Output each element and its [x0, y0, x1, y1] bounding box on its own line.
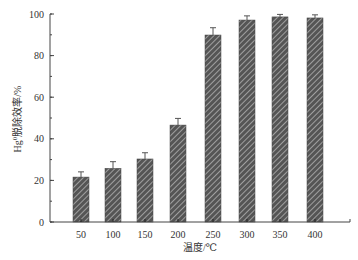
y-axis: 020406080100 — [29, 9, 54, 228]
y-tick-label: 100 — [29, 9, 44, 20]
bar-chart: 020406080100 50100150200250300350400 温度/… — [0, 0, 358, 260]
bar-250 — [205, 28, 221, 222]
x-tick-label: 300 — [240, 229, 255, 240]
y-axis-title: Hg0脱除效率/% — [11, 86, 23, 153]
bar — [170, 125, 186, 222]
x-axis-title: 温度/℃ — [183, 241, 217, 253]
y-tick-label: 40 — [34, 133, 44, 144]
x-axis: 50100150200250300350400 — [50, 219, 350, 240]
y-title-suffix: 脱除效率/% — [11, 86, 23, 137]
bar-100 — [105, 162, 121, 222]
bar — [73, 177, 89, 222]
bar — [205, 35, 221, 222]
bar — [137, 159, 153, 222]
x-tick-label: 50 — [76, 229, 86, 240]
bar — [272, 17, 288, 222]
bar-400 — [307, 15, 323, 222]
bar-350 — [272, 14, 288, 222]
bar — [307, 18, 323, 222]
bar — [105, 168, 121, 222]
x-tick-label: 100 — [106, 229, 121, 240]
bar-300 — [239, 16, 255, 222]
bar — [239, 20, 255, 222]
y-tick-label: 0 — [39, 217, 44, 228]
x-tick-label: 150 — [138, 229, 153, 240]
x-tick-label: 400 — [308, 229, 323, 240]
bar-200 — [170, 118, 186, 222]
bar-50 — [73, 172, 89, 222]
x-tick-label: 200 — [171, 229, 186, 240]
bar-150 — [137, 153, 153, 222]
y-tick-label: 60 — [34, 92, 44, 103]
y-tick-label: 20 — [34, 175, 44, 186]
y-title-prefix: Hg — [12, 140, 23, 152]
y-tick-label: 80 — [34, 50, 44, 61]
x-tick-label: 350 — [273, 229, 288, 240]
plot-area — [73, 14, 323, 222]
x-tick-label: 250 — [206, 229, 221, 240]
